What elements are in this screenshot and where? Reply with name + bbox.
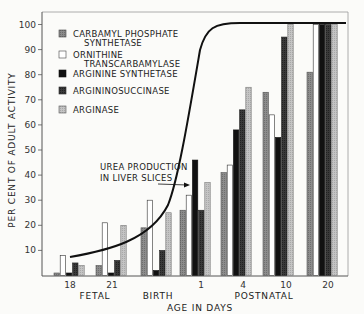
svg-text:10: 10 — [280, 280, 292, 290]
bar-group-20 — [307, 25, 337, 276]
bar — [319, 25, 324, 276]
svg-text:UREA PRODUCTION: UREA PRODUCTION — [100, 162, 188, 172]
bar-group-10 — [263, 25, 293, 276]
bar — [54, 273, 59, 276]
bar — [66, 273, 71, 276]
urea-cycle-enzyme-chart: 102030405060708090100 PER CENT OF ADULT … — [0, 0, 364, 314]
bar — [153, 270, 158, 275]
bar-group-4 — [221, 87, 251, 275]
bar — [332, 25, 337, 276]
svg-text:10: 10 — [25, 245, 37, 255]
bar — [263, 92, 268, 275]
bar — [233, 130, 238, 276]
svg-text:ARGININOSUCCINASE: ARGININOSUCCINASE — [73, 86, 170, 96]
y-axis-label: PER CENT OF ADULT ACTIVITY — [7, 72, 17, 227]
y-axis-ticks: 102030405060708090100 — [19, 20, 42, 256]
bar — [269, 115, 274, 276]
bar — [313, 25, 318, 276]
bar — [282, 37, 287, 275]
svg-text:IN LIVER SLICES: IN LIVER SLICES — [100, 173, 172, 183]
svg-text:18: 18 — [64, 280, 76, 290]
bar — [186, 195, 191, 275]
bar — [227, 165, 232, 275]
bar — [96, 265, 101, 275]
svg-text:20: 20 — [25, 220, 37, 230]
fetal-label: FETAL — [80, 291, 111, 301]
svg-text:ARGININE SYNTHETASE: ARGININE SYNTHETASE — [73, 69, 178, 79]
bar — [199, 210, 204, 275]
svg-text:60: 60 — [25, 120, 37, 130]
bar — [275, 137, 280, 275]
bar-group-21 — [96, 223, 126, 276]
birth-label: BIRTH — [143, 291, 174, 301]
svg-text:20: 20 — [322, 280, 334, 290]
svg-text:50: 50 — [25, 145, 37, 155]
bar — [288, 25, 293, 276]
svg-text:1: 1 — [198, 280, 204, 290]
svg-text:TRANSCARBAMYLASE: TRANSCARBAMYLASE — [83, 59, 180, 69]
svg-text:ARGINASE: ARGINASE — [73, 105, 119, 115]
svg-text:21: 21 — [106, 280, 117, 290]
bar — [160, 250, 165, 275]
svg-text:SYNTHETASE: SYNTHETASE — [84, 38, 142, 48]
bar — [60, 255, 65, 275]
bar — [221, 173, 226, 276]
bar — [108, 273, 113, 276]
bar — [307, 72, 312, 275]
bar — [73, 263, 78, 276]
x-axis-labels: 18 21 1 4 10 20 FETAL BIRTH POSTNATAL AG… — [64, 280, 334, 313]
bar-group-1 — [180, 160, 210, 275]
bar — [115, 260, 120, 275]
bar — [79, 265, 84, 275]
svg-text:4: 4 — [240, 280, 246, 290]
postnatal-label: POSTNATAL — [234, 291, 293, 301]
svg-text:80: 80 — [25, 70, 37, 80]
svg-text:90: 90 — [25, 45, 37, 55]
bar — [121, 225, 126, 275]
svg-text:70: 70 — [25, 95, 37, 105]
bar — [205, 183, 210, 276]
bar — [141, 228, 146, 276]
x-axis-label: AGE IN DAYS — [167, 303, 233, 313]
bar — [246, 87, 251, 275]
bar-group-birth — [141, 200, 171, 275]
bar — [240, 110, 245, 276]
svg-text:40: 40 — [25, 170, 37, 180]
bar-group-18 — [54, 255, 84, 275]
bar — [180, 210, 185, 275]
bar — [326, 25, 331, 276]
bar — [192, 160, 197, 275]
legend: CARBAMYL PHOSPHATE SYNTHETASE ORNITHINE … — [59, 29, 180, 115]
bar — [166, 213, 171, 276]
svg-text:100: 100 — [19, 20, 36, 30]
bar — [147, 200, 152, 275]
svg-text:30: 30 — [25, 195, 37, 205]
